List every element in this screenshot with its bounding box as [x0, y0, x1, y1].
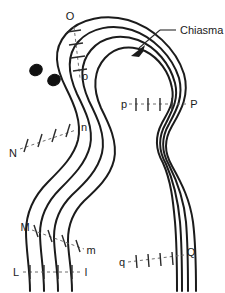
locus-label-M-lower: m: [86, 244, 95, 256]
locus-group-L: L l: [13, 265, 87, 279]
locus-tick-N-2: [38, 134, 42, 147]
locus-tick-N-3: [52, 129, 56, 142]
locus-label-Q-lower: q: [119, 256, 125, 268]
locus-label-N-lower: n: [81, 121, 87, 133]
locus-tick-M-4: [76, 240, 80, 252]
locus-label-L-upper: L: [13, 266, 19, 278]
locus-tick-N-4: [66, 124, 70, 137]
locus-tick-O-2: [69, 43, 83, 45]
locus-label-P-lower: p: [121, 98, 127, 110]
locus-label-P-upper: P: [190, 98, 197, 110]
centromere-dot-1: [28, 62, 45, 78]
locus-tick-Q-2: [148, 254, 149, 267]
chiasma-label: Chiasma: [180, 24, 224, 36]
locus-tick-Q-1: [136, 255, 137, 268]
locus-group-Q: q Q: [119, 246, 196, 268]
locus-tick-N-1: [24, 139, 28, 152]
locus-tick-O-3: [71, 56, 85, 58]
locus-group-P: p P: [121, 98, 198, 111]
locus-group-N: N n: [9, 121, 87, 159]
locus-label-O-upper: O: [66, 10, 75, 22]
locus-tick-Q-3: [160, 253, 161, 266]
locus-label-O-lower: o: [82, 70, 88, 82]
locus-tick-M-2: [48, 230, 52, 242]
chiasma-diagram: O o Chiasma N n: [0, 0, 225, 293]
diagram-canvas: O o Chiasma N n: [0, 0, 225, 293]
locus-label-N-upper: N: [9, 147, 17, 159]
locus-group-M: M m: [20, 221, 95, 256]
locus-label-Q-upper: Q: [187, 246, 196, 258]
locus-label-L-lower: l: [85, 266, 87, 278]
chromatid-strand-1: [26, 17, 196, 291]
locus-tick-Q-4: [172, 252, 173, 265]
locus-label-M-upper: M: [20, 221, 29, 233]
